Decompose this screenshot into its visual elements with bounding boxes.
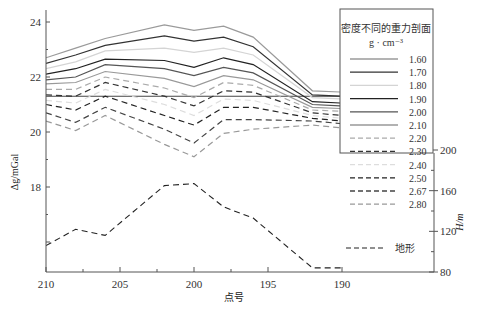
legend-label: 2.80 — [409, 199, 427, 210]
legend-label: 2.30 — [409, 146, 427, 157]
x-tick-label: 195 — [260, 278, 277, 290]
series-line-2-00 — [46, 65, 342, 106]
legend-label: 2.50 — [409, 173, 427, 184]
legend-label: 1.80 — [409, 80, 427, 91]
y-tick-label: 22 — [30, 71, 41, 83]
terrain-legend: 地形 — [346, 242, 415, 254]
y2-tick-label: 80 — [440, 266, 452, 278]
legend-label: 2.20 — [409, 133, 427, 144]
legend-label: 1.70 — [409, 67, 427, 78]
legend-subtitle: g · cm⁻³ — [369, 37, 403, 48]
x-tick-label: 205 — [112, 278, 129, 290]
legend-title: 密度不同的重力剖面 — [341, 22, 431, 34]
y-tick-label: 18 — [30, 181, 42, 193]
terrain-line — [46, 184, 342, 268]
x-tick-label: 190 — [334, 278, 351, 290]
y2-axis-title: H/m — [454, 213, 465, 231]
terrain-legend-label: 地形 — [395, 242, 415, 254]
x-tick-label: 200 — [186, 278, 203, 290]
legend-label: 2.00 — [409, 107, 427, 118]
series-line-2-67 — [46, 107, 342, 143]
y-tick-label: 20 — [30, 126, 42, 138]
legend-label: 2.10 — [409, 120, 427, 131]
y-axis-title: Δg/mGal — [9, 154, 20, 191]
series-layer — [46, 25, 342, 157]
series-line-1-60 — [46, 25, 342, 92]
y2-tick-label: 160 — [440, 185, 457, 197]
gravity-profile-chart: 2422201821020520019519020016012080 密度不同的… — [0, 0, 479, 318]
y-tick-label: 24 — [30, 16, 42, 28]
x-axis-title: 点号 — [224, 292, 244, 303]
legend-label: 2.67 — [409, 186, 427, 197]
legend-label: 2.40 — [409, 160, 427, 171]
terrain-polyline — [46, 184, 342, 268]
legend-label: 1.90 — [409, 94, 427, 105]
series-line-1-80 — [46, 48, 342, 99]
series-line-2-80 — [46, 116, 342, 157]
legend: 密度不同的重力剖面 g · cm⁻³ 1.601.701.801.902.002… — [340, 9, 433, 210]
x-tick-label: 210 — [38, 278, 55, 290]
legend-label: 1.60 — [409, 54, 427, 65]
y2-tick-label: 200 — [440, 144, 457, 156]
